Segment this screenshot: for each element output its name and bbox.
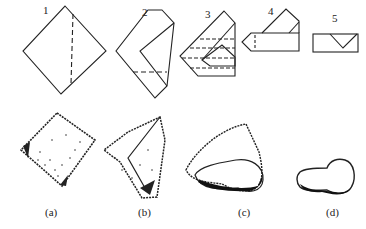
result-c-shape xyxy=(186,124,263,191)
step-2-label: 2 xyxy=(142,6,148,18)
result-c-label: (c) xyxy=(238,206,250,218)
step-5-label: 5 xyxy=(332,12,338,24)
result-b-shape xyxy=(104,117,165,198)
step-1-diagram xyxy=(23,6,106,94)
result-a-label: (a) xyxy=(45,206,57,218)
step-3-label: 3 xyxy=(205,8,211,20)
step-4-label: 4 xyxy=(268,5,274,17)
result-a-shape xyxy=(21,113,95,186)
result-b-label: (b) xyxy=(138,206,151,218)
step-3-diagram xyxy=(180,11,235,76)
step-1-label: 1 xyxy=(43,4,49,16)
step-5-diagram xyxy=(313,34,358,52)
folding-diagram xyxy=(0,0,366,229)
step-2-diagram xyxy=(116,10,174,98)
result-d-label: (d) xyxy=(326,206,339,218)
result-d-shape xyxy=(297,159,354,194)
